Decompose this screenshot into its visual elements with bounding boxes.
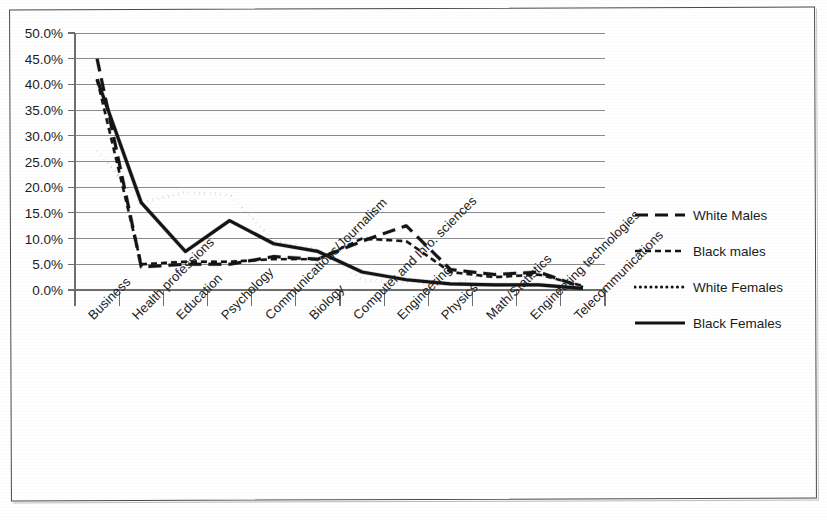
y-axis-tick-label: 50.0% [25, 26, 63, 41]
legend-line-swatch [634, 316, 686, 330]
series-white-males [97, 59, 583, 288]
legend-line-swatch [634, 208, 686, 222]
y-axis-tick-label: 40.0% [25, 77, 63, 92]
legend-item-white-males[interactable]: White Males [634, 197, 814, 233]
y-axis-tick-label: 35.0% [25, 103, 63, 118]
y-axis-tick-label: 0.0% [32, 283, 63, 298]
legend-item-label: Black Females [693, 316, 782, 331]
legend-item-black-females[interactable]: Black Females [634, 305, 814, 341]
y-axis-tick-label: 25.0% [25, 155, 63, 170]
series-line [97, 79, 583, 288]
legend-item-black-males[interactable]: Black males [634, 233, 814, 269]
y-axis-tick-label: 5.0% [32, 257, 63, 272]
y-axis-tick-label: 45.0% [25, 52, 63, 67]
chart-legend: White MalesBlack malesWhite FemalesBlack… [634, 197, 814, 341]
y-axis-tick-label: 15.0% [25, 206, 63, 221]
legend-line-swatch [634, 244, 686, 258]
legend-line-swatch [634, 280, 686, 294]
legend-item-label: Black males [693, 244, 766, 259]
gridlines-group [75, 33, 605, 290]
data-series-group [97, 59, 583, 289]
chart-screenshot: 50.0%45.0%40.0%35.0%30.0%25.0%20.0%15.0%… [0, 0, 827, 520]
legend-item-label: White Females [693, 280, 783, 295]
legend-item-label: White Males [693, 208, 767, 223]
y-axis-tick-label: 10.0% [25, 232, 63, 247]
series-line [97, 59, 583, 288]
legend-item-white-females[interactable]: White Females [634, 269, 814, 305]
series-black-females [97, 79, 583, 288]
y-axis-tick-label: 30.0% [25, 129, 63, 144]
series-ink-bleed [97, 79, 583, 288]
series-ink-bleed [97, 59, 583, 288]
y-axis-tick-labels-group: 50.0%45.0%40.0%35.0%30.0%25.0%20.0%15.0%… [25, 26, 75, 298]
y-axis-tick-label: 20.0% [25, 180, 63, 195]
